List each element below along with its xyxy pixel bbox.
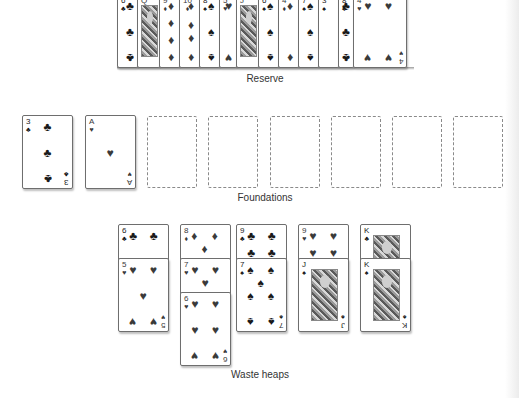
- foundation-slot-empty[interactable]: [270, 116, 320, 188]
- card-corner-index: 3♣: [26, 118, 31, 133]
- card-rank: J: [302, 260, 306, 269]
- card[interactable]: 4♥4♥♥♥♥♥: [353, 0, 407, 68]
- card[interactable]: 8♣♣♣♣: [338, 0, 354, 68]
- card-rank: 7: [184, 260, 188, 269]
- foundation-slot-empty[interactable]: [208, 116, 258, 188]
- suit-pip-icon: ♥: [385, 0, 392, 12]
- card-suit-icon: ♣: [121, 5, 126, 12]
- suit-pip-icon: ♠: [307, 26, 313, 38]
- suit-pip-icon: ♠: [247, 264, 253, 276]
- card-corner-index: J♠: [302, 261, 306, 276]
- card-rank: 5: [161, 321, 165, 330]
- card-suit-icon: ♣: [64, 171, 69, 178]
- face-card-portrait: [141, 5, 158, 57]
- card[interactable]: J♥: [236, 0, 259, 68]
- card-suit-icon: ♥: [302, 235, 306, 242]
- suit-pip-icon: ♦: [202, 243, 208, 255]
- suit-pip-icon: ♠: [208, 52, 214, 64]
- suit-pip-icon: ♦: [287, 0, 293, 12]
- card-corner-index: J♠: [341, 314, 345, 329]
- suit-pip-icon: ♦: [168, 35, 174, 47]
- card-rank: 9: [240, 226, 244, 235]
- card-rank: K: [364, 226, 369, 235]
- foundations-label: Foundations: [225, 192, 305, 203]
- suit-pip-icon: ♥: [202, 277, 209, 289]
- card-corner-index: 5♥: [122, 261, 126, 276]
- suit-pip-icon: ♦: [168, 52, 174, 64]
- foundation-slot-empty[interactable]: [147, 116, 197, 188]
- card-suit-icon: ♣: [26, 126, 31, 133]
- waste-heap-card[interactable]: 6♥6♥♥♥♥♥♥♥: [180, 292, 231, 366]
- card[interactable]: 6♣♣♣♣: [117, 0, 138, 68]
- card-suit-icon: ♣: [364, 235, 369, 242]
- suit-pip-icon: ♥: [364, 0, 371, 12]
- card-suit-icon: ♠: [341, 314, 345, 321]
- suit-pip-icon: ♣: [150, 230, 158, 242]
- card[interactable]: 4♦♦♦: [278, 0, 299, 68]
- card[interactable]: 6♠♠♠♠: [258, 0, 279, 68]
- suit-pip-icon: ♠: [208, 26, 214, 38]
- suit-pip-icon: ♣: [126, 0, 134, 12]
- foundation-slot-empty[interactable]: [331, 116, 381, 188]
- foundation-slot-empty[interactable]: [453, 116, 503, 188]
- suit-pip-icon: ♥: [225, 0, 232, 12]
- suit-pip-icon: ♣: [44, 121, 52, 133]
- card-suit-icon: ♠: [262, 5, 266, 12]
- card[interactable]: 9♦♦♦♦♦: [159, 0, 180, 68]
- card[interactable]: 10♦♦♦♦♦: [179, 0, 200, 68]
- card-corner-index: 7♠: [279, 314, 283, 329]
- card[interactable]: Q♦: [137, 0, 160, 68]
- foundation-card[interactable]: A♥A♥♥: [85, 115, 136, 189]
- waste-heap-card[interactable]: 5♥5♥♥♥♥♥♥: [118, 258, 169, 332]
- suit-pip-icon: ♣: [268, 230, 276, 242]
- card-corner-index: 9♣: [240, 227, 245, 242]
- suit-pip-icon: ♣: [126, 26, 134, 38]
- suit-pip-icon: ♣: [342, 0, 350, 12]
- card[interactable]: 3♠: [318, 0, 339, 68]
- suit-pip-icon: ♦: [188, 52, 194, 64]
- card[interactable]: 5♥♥♥: [219, 0, 237, 68]
- suit-pip-icon: ♠: [307, 52, 313, 64]
- face-card-portrait: [311, 269, 338, 321]
- waste-heap-card[interactable]: K♠K♠: [360, 258, 411, 332]
- suit-pip-icon: ♦: [188, 19, 194, 31]
- face-card-portrait: [240, 5, 257, 57]
- foundation-slot-empty[interactable]: [392, 116, 442, 188]
- suit-pip-icon: ♥: [330, 230, 337, 242]
- card-suit-icon: ♥: [357, 5, 361, 12]
- suit-pip-icon: ♥: [191, 350, 198, 362]
- card-corner-index: 7♠: [302, 0, 306, 12]
- card-suit-icon: ♥: [184, 269, 188, 276]
- card[interactable]: 8♠♠♠♠: [199, 0, 220, 68]
- card-suit-icon: ♠: [322, 5, 326, 12]
- card-corner-index: 4♥: [399, 50, 403, 65]
- card-rank: 6: [184, 294, 188, 303]
- card-rank: 8: [184, 226, 188, 235]
- card-rank: 7: [279, 321, 283, 330]
- card[interactable]: 7♠♠♠♠: [298, 0, 319, 68]
- card-corner-index: 3♣: [64, 171, 69, 186]
- card-corner-index: 6♥: [184, 295, 188, 310]
- suit-pip-icon: ♠: [268, 264, 274, 276]
- suit-pip-icon: ♠: [307, 0, 313, 12]
- suit-pip-icon: ♦: [191, 230, 197, 242]
- suit-pip-icon: ♠: [208, 0, 214, 12]
- suit-pip-icon: ♣: [44, 173, 52, 185]
- waste-heap-card[interactable]: 7♠7♠♠♠♠♠♠♠♠: [236, 258, 287, 332]
- waste-heaps-label: Waste heaps: [220, 369, 300, 380]
- card-suit-icon: ♥: [89, 126, 94, 133]
- card-suit-icon: ♠: [402, 314, 407, 321]
- card-rank: K: [402, 321, 407, 330]
- card-corner-index: 5♥: [161, 314, 165, 329]
- card-rank: 5: [122, 260, 126, 269]
- foundation-card[interactable]: 3♣3♣♣♣♣: [22, 115, 73, 189]
- card-suit-icon: ♠: [203, 5, 207, 12]
- reserve-pile[interactable]: 6♣♣♣♣Q♦9♦♦♦♦♦10♦♦♦♦♦8♠♠♠♠5♥♥♥J♥6♠♠♠♠4♦♦♦…: [117, 0, 413, 70]
- suit-pip-icon: ♦: [287, 52, 293, 64]
- suit-pip-icon: ♠: [267, 26, 273, 38]
- suit-pip-icon: ♦: [188, 0, 194, 12]
- waste-heap-card[interactable]: J♠J♠: [298, 258, 349, 332]
- card-corner-index: 4♦: [282, 0, 286, 12]
- card-suit-icon: ♠: [364, 269, 369, 276]
- suit-pip-icon: ♥: [191, 298, 198, 310]
